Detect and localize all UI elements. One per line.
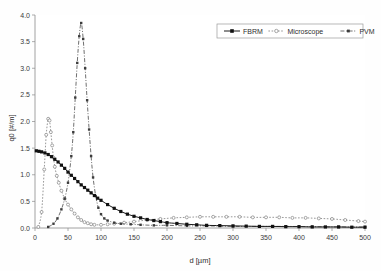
data-point-pvm	[80, 22, 82, 24]
data-point-fbrm	[271, 225, 274, 228]
plot-area-background	[35, 15, 365, 228]
y-tick-label: 0.0	[20, 225, 30, 232]
data-point-pvm	[139, 224, 141, 226]
data-point-fbrm	[93, 194, 96, 197]
data-point-fbrm	[70, 174, 73, 177]
legend-marker-fbrm	[230, 29, 234, 33]
data-point-fbrm	[63, 167, 66, 170]
data-point-microscope	[43, 168, 46, 171]
data-point-pvm	[84, 67, 86, 69]
data-point-microscope	[100, 223, 103, 226]
data-point-microscope	[159, 217, 162, 220]
data-point-fbrm	[159, 220, 162, 223]
data-point-microscope	[344, 219, 347, 222]
data-point-pvm	[72, 131, 74, 133]
figure-container: 0.00.51.01.52.02.53.03.54.0 050100150200…	[0, 0, 381, 271]
data-point-fbrm	[132, 215, 135, 218]
legend-marker-microscope	[275, 29, 278, 32]
data-point-microscope	[291, 216, 294, 219]
data-point-microscope	[70, 208, 73, 211]
data-point-pvm	[100, 213, 102, 215]
x-tick-label: 400	[293, 234, 305, 241]
y-tick-label: 1.0	[20, 171, 30, 178]
x-tick-label: 50	[64, 234, 72, 241]
data-point-microscope	[90, 223, 93, 226]
legend-marker-pvm	[347, 30, 350, 33]
y-axis-ticks: 0.00.51.01.52.02.53.03.54.0	[20, 12, 35, 232]
data-point-pvm	[113, 221, 115, 223]
x-tick-label: 450	[326, 234, 338, 241]
data-point-pvm	[60, 208, 62, 210]
data-point-microscope	[172, 216, 175, 219]
data-point-pvm	[153, 224, 155, 226]
data-point-fbrm	[57, 160, 60, 163]
data-point-microscope	[212, 215, 215, 218]
data-point-microscope	[83, 221, 86, 224]
data-point-microscope	[106, 223, 109, 226]
x-axis-ticks: 050100150200250300350400450500	[33, 228, 371, 241]
y-tick-label: 2.5	[20, 91, 30, 98]
data-point-microscope	[331, 217, 334, 220]
data-point-microscope	[265, 216, 268, 219]
data-point-microscope	[278, 216, 281, 219]
data-point-microscope	[53, 165, 56, 168]
data-point-fbrm	[139, 216, 142, 219]
y-tick-label: 4.0	[20, 12, 30, 19]
x-tick-label: 300	[227, 234, 239, 241]
data-point-pvm	[106, 219, 108, 221]
data-point-fbrm	[165, 221, 168, 224]
data-point-fbrm	[126, 213, 129, 216]
data-point-microscope	[40, 211, 43, 214]
y-tick-label: 2.0	[20, 118, 30, 125]
data-point-fbrm	[363, 226, 366, 229]
data-point-microscope	[73, 212, 76, 215]
data-point-fbrm	[311, 225, 314, 228]
data-point-microscope	[199, 215, 202, 218]
chart-legend[interactable]: FBRMMicroscopePVM	[217, 24, 375, 38]
data-point-microscope	[57, 181, 60, 184]
data-point-fbrm	[218, 224, 221, 227]
data-point-fbrm	[60, 164, 63, 167]
data-point-pvm	[78, 35, 80, 37]
y-tick-label: 3.0	[20, 65, 30, 72]
x-tick-label: 150	[128, 234, 140, 241]
data-point-microscope	[67, 203, 70, 206]
data-point-microscope	[238, 215, 241, 218]
y-tick-label: 1.5	[20, 145, 30, 152]
data-point-microscope	[317, 217, 320, 220]
data-point-microscope	[45, 133, 48, 136]
data-point-microscope	[37, 225, 40, 228]
data-point-fbrm	[205, 224, 208, 227]
y-tick-label: 0.5	[20, 198, 30, 205]
x-axis-title: d [µm]	[190, 256, 211, 265]
data-point-microscope	[304, 216, 307, 219]
data-point-pvm	[76, 62, 78, 64]
data-point-fbrm	[231, 224, 234, 227]
data-point-pvm	[103, 217, 105, 219]
data-point-fbrm	[245, 225, 248, 228]
data-point-fbrm	[40, 150, 43, 153]
data-point-fbrm	[106, 203, 109, 206]
data-point-fbrm	[119, 210, 122, 213]
data-point-fbrm	[50, 155, 53, 158]
data-point-fbrm	[96, 197, 99, 200]
data-point-pvm	[56, 217, 58, 219]
data-point-pvm	[64, 198, 66, 200]
data-point-fbrm	[47, 153, 50, 156]
data-point-fbrm	[53, 158, 56, 161]
data-point-microscope	[251, 216, 254, 219]
x-tick-label: 500	[359, 234, 371, 241]
data-point-fbrm	[324, 225, 327, 228]
data-point-pvm	[67, 182, 69, 184]
data-point-pvm	[52, 223, 54, 225]
data-point-fbrm	[86, 189, 89, 192]
data-point-fbrm	[80, 183, 83, 186]
y-axis-title: q0 [#/m]	[7, 114, 16, 141]
data-point-fbrm	[73, 177, 76, 180]
data-point-microscope	[185, 216, 188, 219]
x-tick-label: 100	[95, 234, 107, 241]
data-point-pvm	[90, 155, 92, 157]
data-point-microscope	[76, 216, 79, 219]
data-point-pvm	[86, 99, 88, 101]
data-point-microscope	[357, 220, 360, 223]
